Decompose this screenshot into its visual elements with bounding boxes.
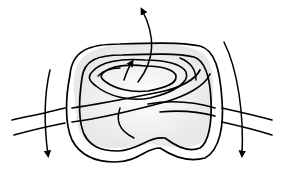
knot-illustration xyxy=(0,0,281,173)
knot-diagram xyxy=(0,0,281,173)
arrow-right-down-icon xyxy=(224,42,242,155)
